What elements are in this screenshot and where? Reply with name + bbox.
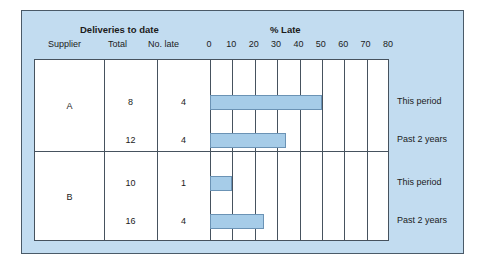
- chart-panel: Deliveries to date % Late Supplier Total…: [21, 10, 464, 254]
- cell-total: 12: [125, 135, 135, 145]
- cell-no-late: 4: [181, 216, 186, 226]
- x-tick-10: 10: [226, 39, 236, 49]
- gridline-50: [322, 60, 323, 240]
- chart-page: Deliveries to date % Late Supplier Total…: [0, 0, 490, 271]
- bar-b-this-period: [210, 176, 232, 191]
- series-label-a-past-2-years: Past 2 years: [397, 134, 447, 144]
- bar-a-past-2-years: [210, 133, 286, 148]
- series-label-a-this-period: This period: [397, 96, 442, 106]
- x-axis-tick-labels: 01020304050607080: [187, 39, 389, 51]
- gridline-30: [277, 60, 278, 240]
- series-label-b-past-2-years: Past 2 years: [397, 215, 447, 225]
- x-tick-50: 50: [316, 39, 326, 49]
- cell-supplier-a: A: [66, 101, 72, 111]
- column-header-total: Total: [108, 39, 127, 49]
- gridline-40: [300, 60, 301, 240]
- table-column-divider-0: [104, 60, 105, 240]
- x-tick-20: 20: [249, 39, 259, 49]
- group-title-deliveries: Deliveries to date: [80, 24, 159, 35]
- column-header-no-late: No. late: [148, 39, 179, 49]
- group-title-percent-late: % Late: [270, 24, 301, 35]
- table-chart-grid: 84124101164AB: [34, 59, 389, 241]
- gridline-70: [367, 60, 368, 240]
- cell-supplier-b: B: [66, 192, 72, 202]
- column-header-supplier: Supplier: [48, 39, 81, 49]
- series-label-b-this-period: This period: [397, 177, 442, 187]
- cell-total: 8: [128, 97, 133, 107]
- cell-no-late: 1: [181, 178, 186, 188]
- x-tick-70: 70: [361, 39, 371, 49]
- x-tick-60: 60: [338, 39, 348, 49]
- bar-a-this-period: [210, 95, 322, 110]
- cell-no-late: 4: [181, 97, 186, 107]
- x-tick-0: 0: [206, 39, 211, 49]
- x-tick-40: 40: [293, 39, 303, 49]
- bar-b-past-2-years: [210, 214, 264, 229]
- table-column-divider-1: [157, 60, 158, 240]
- cell-total: 10: [125, 178, 135, 188]
- x-tick-80: 80: [383, 39, 393, 49]
- gridline-60: [344, 60, 345, 240]
- cell-total: 16: [125, 216, 135, 226]
- cell-no-late: 4: [181, 135, 186, 145]
- group-divider: [35, 151, 388, 152]
- x-tick-30: 30: [271, 39, 281, 49]
